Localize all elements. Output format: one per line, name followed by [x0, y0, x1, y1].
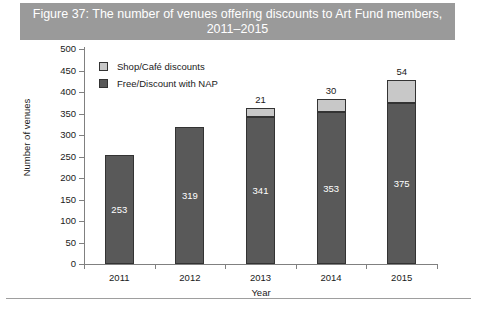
y-axis-title: Number of venues [21, 88, 32, 188]
x-axis-tick-label: 2011 [89, 272, 149, 283]
bar-group[interactable]: 37554 [387, 49, 416, 264]
y-axis-tick-label: 150 [36, 195, 76, 204]
bar-segment-free-discount-nap[interactable]: 253 [105, 155, 134, 264]
y-axis-tick-label: 250 [36, 152, 76, 161]
y-axis-tick-label: 50 [36, 238, 76, 247]
bar-top-value-label: 30 [317, 85, 346, 96]
legend-item-free-discount-nap: Free/Discount with NAP [99, 75, 218, 92]
bar-segment-free-discount-nap[interactable]: 341 [246, 117, 275, 264]
legend-swatch-icon-free-discount [99, 79, 108, 88]
x-axis-title: Year [84, 287, 438, 298]
bar-segment-free-discount-nap[interactable]: 319 [175, 127, 204, 264]
figure-bottom-rule [6, 298, 471, 299]
bar-segment-shop-cafe-discounts[interactable] [317, 99, 346, 112]
figure-title-text: Figure 37: The number of venues offering… [28, 7, 447, 37]
bar-top-value-label: 54 [387, 66, 416, 77]
y-axis-tick-label: 300 [36, 130, 76, 139]
chart-legend: Shop/Café discounts Free/Discount with N… [99, 58, 218, 92]
legend-label-shop-cafe: Shop/Café discounts [117, 61, 205, 72]
chart-figure: Number of venues Year 050100150200250300… [0, 40, 477, 295]
y-axis-tick-label: 100 [36, 216, 76, 225]
bar-value-label: 341 [253, 185, 269, 196]
legend-item-shop-cafe-discounts: Shop/Café discounts [99, 58, 218, 75]
y-axis-tick-label: 400 [36, 87, 76, 96]
bar-value-label: 375 [394, 178, 410, 189]
x-axis-tick [296, 264, 297, 269]
x-axis-tick [225, 264, 226, 269]
bar-segment-free-discount-nap[interactable]: 353 [317, 112, 346, 264]
bar-value-label: 353 [323, 183, 339, 194]
bar-segment-shop-cafe-discounts[interactable] [246, 108, 275, 117]
y-axis-tick-label: 0 [36, 259, 76, 268]
x-axis-tick-label: 2012 [160, 272, 220, 283]
x-axis-tick [366, 264, 367, 269]
x-axis-tick [437, 264, 438, 269]
bar-top-value-label: 21 [246, 94, 275, 105]
bar-value-label: 253 [111, 204, 127, 215]
figure-title-banner: Figure 37: The number of venues offering… [20, 3, 455, 40]
x-axis-tick [155, 264, 156, 269]
bar-segment-free-discount-nap[interactable]: 375 [387, 103, 416, 264]
legend-swatch-icon-shop-cafe [99, 62, 108, 71]
y-axis-tick-label: 450 [36, 66, 76, 75]
bar-value-label: 319 [182, 190, 198, 201]
x-axis-line [84, 264, 438, 265]
x-axis-tick-label: 2013 [231, 272, 291, 283]
x-axis-tick-label: 2015 [372, 272, 432, 283]
x-axis-tick-label: 2014 [301, 272, 361, 283]
legend-label-free-discount: Free/Discount with NAP [117, 78, 218, 89]
x-axis-tick [84, 264, 85, 269]
bar-group[interactable]: 35330 [317, 49, 346, 264]
y-axis-tick-label: 500 [36, 44, 76, 53]
bar-segment-shop-cafe-discounts[interactable] [387, 80, 416, 103]
bar-group[interactable]: 34121 [246, 49, 275, 264]
y-axis-tick-label: 350 [36, 109, 76, 118]
y-axis-tick-label: 200 [36, 173, 76, 182]
